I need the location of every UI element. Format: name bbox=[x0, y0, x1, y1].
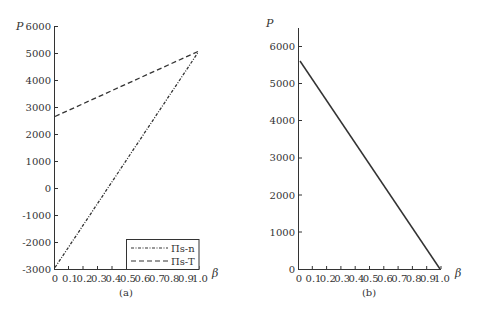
panel-b-x-axis-label: β bbox=[454, 267, 461, 280]
panel-b-caption: (b) bbox=[362, 287, 376, 298]
panel-a-caption: (a) bbox=[119, 287, 133, 298]
x-tick-label: 1.0 bbox=[434, 273, 450, 284]
panel-b-x-tick-labels: 0 0.1 0.2 0.3 0.4 0.5 0.6 0.7 0.8 0.9 1.… bbox=[296, 273, 450, 284]
y-tick-label: 2000 bbox=[270, 190, 295, 201]
panel-a-x-axis-label: β bbox=[211, 267, 218, 280]
panel-a-y-tick-labels: 6000 5000 4000 3000 2000 1000 0 -1000 -2… bbox=[22, 21, 51, 275]
panel-a-x-tick-labels: 0 0.1 0.2 0.3 0.4 0.5 0.6 0.7 0.8 0.9 1.… bbox=[52, 273, 208, 284]
y-tick-label: 1000 bbox=[26, 156, 51, 167]
y-tick-label: -2000 bbox=[22, 237, 51, 248]
panel-b-x-ticks bbox=[312, 266, 441, 269]
panel-b-y-tick-labels: 6000 5000 4000 3000 2000 1000 0 bbox=[270, 41, 295, 275]
y-tick-label: 4000 bbox=[270, 115, 295, 126]
panel-a: 6000 5000 4000 3000 2000 1000 0 -1000 -2… bbox=[15, 20, 218, 298]
x-tick-label: 1.0 bbox=[192, 273, 208, 284]
legend-label: Πs-n bbox=[171, 243, 195, 254]
y-tick-label: 5000 bbox=[270, 78, 295, 89]
y-tick-label: 1000 bbox=[270, 227, 295, 238]
y-tick-label: -1000 bbox=[22, 210, 51, 221]
y-tick-label: 5000 bbox=[26, 48, 51, 59]
x-tick-label: 0 bbox=[52, 273, 58, 284]
y-tick-label: 6000 bbox=[26, 21, 51, 32]
legend-label: Πs-T bbox=[171, 256, 195, 267]
y-tick-label: -3000 bbox=[22, 264, 51, 275]
series-pi-s-t-line bbox=[55, 52, 198, 117]
y-tick-label: 0 bbox=[45, 183, 51, 194]
y-tick-label: 3000 bbox=[26, 102, 51, 113]
series-p-line bbox=[300, 61, 440, 269]
series-pi-s-n-line bbox=[55, 53, 198, 268]
y-tick-label: 2000 bbox=[26, 129, 51, 140]
panel-b-y-axis-label: P bbox=[265, 17, 274, 30]
legend: Πs-n Πs-T bbox=[127, 240, 200, 270]
y-tick-label: 4000 bbox=[26, 75, 51, 86]
panel-a-y-axis-label: P bbox=[15, 20, 24, 33]
figure: 6000 5000 4000 3000 2000 1000 0 -1000 -2… bbox=[0, 0, 477, 314]
panel-b: 6000 5000 4000 3000 2000 1000 0 P 0 0.1 … bbox=[265, 17, 461, 298]
x-tick-label: 0 bbox=[296, 273, 302, 284]
y-tick-label: 3000 bbox=[270, 152, 295, 163]
y-tick-label: 0 bbox=[289, 264, 295, 275]
y-tick-label: 6000 bbox=[270, 41, 295, 52]
